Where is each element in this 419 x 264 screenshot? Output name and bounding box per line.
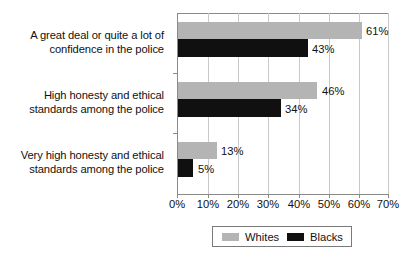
category-label-line: standards among the police bbox=[0, 163, 164, 177]
y-axis-tick bbox=[173, 133, 178, 134]
category-label-line: A great deal or quite a lot of bbox=[0, 29, 164, 43]
legend-swatch-whites-icon bbox=[222, 233, 239, 241]
category-label-confidence: A great deal or quite a lot of confidenc… bbox=[0, 29, 164, 56]
bar-value-whites-high-honesty: 46% bbox=[322, 85, 344, 97]
bar-whites-confidence bbox=[178, 22, 362, 39]
bar-blacks-confidence bbox=[178, 39, 308, 57]
chart-legend: Whites Blacks bbox=[212, 226, 352, 247]
bar-blacks-very-high-honesty bbox=[178, 159, 193, 177]
bar-chart: A great deal or quite a lot of confidenc… bbox=[0, 0, 419, 264]
bar-value-whites-very-high-honesty: 13% bbox=[221, 145, 243, 157]
bar-whites-high-honesty bbox=[178, 82, 317, 99]
legend-entry-blacks: Blacks bbox=[287, 230, 343, 244]
plot-area: 61% 43% 46% 34% 13% 5% bbox=[177, 13, 388, 194]
category-label-line: confidence in the police bbox=[0, 43, 164, 57]
legend-swatch-blacks-icon bbox=[287, 233, 304, 241]
gridline-50 bbox=[329, 13, 330, 194]
bar-value-blacks-very-high-honesty: 5% bbox=[198, 163, 214, 175]
legend-entry-whites: Whites bbox=[222, 230, 279, 244]
category-label-line: High honesty and ethical bbox=[0, 89, 164, 103]
x-axis-tick-labels: 0% 10% 20% 30% 40% 50% 60% 70% bbox=[177, 198, 392, 214]
x-tick-label-70: 70% bbox=[368, 198, 408, 211]
category-label-very-high-honesty: Very high honesty and ethical standards … bbox=[0, 149, 164, 176]
category-label-line: standards among the police bbox=[0, 103, 164, 117]
bar-value-blacks-high-honesty: 34% bbox=[285, 103, 307, 115]
category-axis-labels: A great deal or quite a lot of confidenc… bbox=[0, 13, 172, 194]
category-label-high-honesty: High honesty and ethical standards among… bbox=[0, 89, 164, 116]
bar-value-whites-confidence: 61% bbox=[366, 25, 388, 37]
legend-label-whites: Whites bbox=[245, 231, 279, 244]
bar-value-blacks-confidence: 43% bbox=[312, 43, 334, 55]
bar-blacks-high-honesty bbox=[178, 99, 281, 117]
gridline-70 bbox=[388, 13, 389, 194]
bar-whites-very-high-honesty bbox=[178, 142, 217, 159]
legend-label-blacks: Blacks bbox=[310, 231, 343, 244]
category-label-line: Very high honesty and ethical bbox=[0, 149, 164, 163]
y-axis-tick bbox=[173, 73, 178, 74]
gridline-60 bbox=[359, 13, 360, 194]
